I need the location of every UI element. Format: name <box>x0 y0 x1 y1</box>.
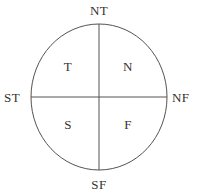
quadrant-label-upper-right: N <box>123 60 133 73</box>
axis-label-east: NF <box>172 91 189 104</box>
quadrant-label-upper-left: T <box>64 60 72 73</box>
quadrant-label-lower-left: S <box>64 118 72 131</box>
quadrant-circle-diagram: NT SF ST NF T N S F <box>0 0 198 196</box>
axis-label-south: SF <box>91 178 106 191</box>
axis-label-west: ST <box>4 91 20 104</box>
axis-label-north: NT <box>90 4 108 17</box>
diagram-canvas <box>0 0 198 196</box>
quadrant-label-lower-right: F <box>124 118 132 131</box>
